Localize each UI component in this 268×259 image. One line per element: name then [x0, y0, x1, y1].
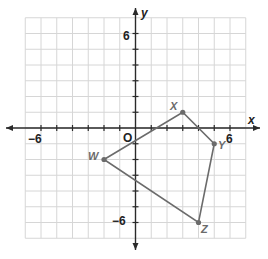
x-tick-label-neg6: −6 — [28, 132, 42, 146]
y-axis-arrow-up-icon — [133, 8, 139, 15]
y-tick-label-6: 6 — [123, 29, 130, 43]
vertex-point-x — [180, 110, 185, 115]
polygon-wxyz — [104, 112, 214, 222]
y-axis-arrow-down-icon — [133, 243, 139, 250]
coordinate-plane: x y O −6 6 6 −6 X Y Z W — [0, 0, 268, 259]
y-axis-label: y — [140, 6, 149, 20]
y-tick-label-neg6: −6 — [112, 214, 126, 228]
vertex-label-w: W — [88, 150, 100, 162]
vertex-label-x: X — [169, 100, 178, 112]
x-tick-label-6: 6 — [226, 132, 233, 146]
origin-label: O — [123, 131, 132, 145]
x-axis-arrow-left-icon — [6, 125, 13, 131]
vertex-point-y — [212, 141, 217, 146]
vertex-point-w — [101, 157, 106, 162]
axes — [6, 8, 260, 250]
vertex-label-z: Z — [200, 223, 209, 235]
x-axis-label: x — [247, 113, 256, 127]
